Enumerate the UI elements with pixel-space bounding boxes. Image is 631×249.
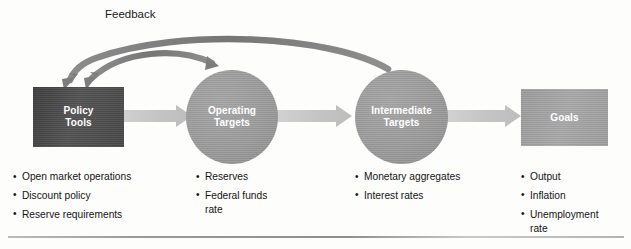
node-intermediate-targets: Intermediate Targets — [355, 70, 448, 164]
arrow-policy-to-operating — [118, 105, 192, 127]
policy-tools-bullet-list: Open market operations Discount policy R… — [13, 170, 178, 226]
goals-bullet-list: Output Inflation Unemployment rate — [521, 170, 626, 241]
list-item: Reserves — [196, 170, 292, 185]
arrow-operating-to-intermediate — [276, 105, 352, 127]
node-operating-targets: Operating Targets — [186, 70, 278, 164]
list-item: Interest rates — [355, 189, 500, 204]
list-item: Open market operations — [13, 170, 178, 185]
list-item: Monetary aggregates — [355, 170, 500, 185]
node-intermediate-targets-label: Intermediate Targets — [371, 105, 432, 129]
operating-targets-bullet-list: Reserves Federal funds rate — [196, 170, 292, 222]
monetary-policy-diagram: Policy Tools Operating Targets Intermedi… — [0, 0, 631, 249]
list-item: Reserve requirements — [13, 208, 178, 223]
list-item: Discount policy — [13, 189, 178, 204]
node-goals-label: Goals — [550, 112, 578, 124]
intermediate-targets-bullet-list: Monetary aggregates Interest rates — [355, 170, 500, 208]
list-item: Unemployment rate — [521, 208, 626, 237]
node-operating-targets-label: Operating Targets — [208, 105, 256, 129]
list-item: Inflation — [521, 189, 626, 204]
arrow-intermediate-to-goals — [447, 105, 521, 127]
feedback-label: Feedback — [105, 8, 156, 20]
arrow-feedback-short — [92, 53, 212, 78]
node-goals: Goals — [521, 89, 608, 146]
node-policy-tools: Policy Tools — [33, 87, 124, 147]
list-item: Federal funds rate — [196, 189, 292, 218]
list-item: Output — [521, 170, 626, 185]
bottom-divider — [8, 236, 624, 238]
node-policy-tools-label: Policy Tools — [63, 105, 93, 129]
arrowhead-feedback-short-tip — [205, 56, 219, 70]
